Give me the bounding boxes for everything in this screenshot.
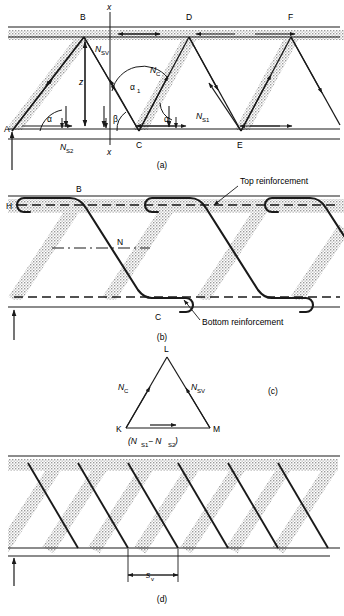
svg-text:S2: S2 (66, 148, 74, 154)
svg-text:v: v (151, 576, 154, 582)
svg-text:− N: − N (148, 436, 162, 446)
triangle-edge-label-nsv: N SV (191, 382, 205, 394)
panel-b-caption: (b) (157, 332, 168, 342)
panel-a: A B C D E F x x N SV N C N S1 N S2 z α β… (4, 2, 344, 170)
svg-text:C: C (124, 388, 129, 394)
panel-b: H B N C Top reinforcement Bottom reinfor… (6, 176, 344, 342)
panel-a-compression-bands (8, 30, 344, 132)
svg-text:(N: (N (128, 436, 138, 446)
dimension-label-z: z (78, 77, 84, 87)
svg-text:SV: SV (197, 388, 205, 394)
force-label-ns1: N S1 (196, 111, 210, 123)
node-label-H: H (6, 201, 12, 211)
section-mark-bottom: x (106, 147, 112, 157)
panel-d-caption: (d) (157, 594, 168, 604)
node-label-C: C (136, 140, 142, 150)
panel-d: s v (d) (2, 456, 340, 604)
angle-label-alpha-left: α (47, 114, 52, 124)
panel-c-caption: (c) (268, 386, 278, 396)
node-label-L: L (164, 344, 169, 354)
svg-text:S1: S1 (202, 117, 210, 123)
bottom-reinforcement-label: Bottom reinforcement (202, 317, 284, 327)
triangle-base-label: (N S1 − N S2 ) (128, 436, 178, 448)
panel-c: L K M N C N SV (N S1 − N S2 ) (c) (116, 344, 278, 448)
force-label-ns2: N S2 (60, 142, 74, 154)
node-label-K: K (116, 424, 122, 434)
triangle-edge-label-nc: N C (118, 382, 129, 394)
top-reinforcement-label: Top reinforcement (240, 176, 309, 186)
node-label-N: N (117, 237, 123, 247)
svg-text:1: 1 (137, 88, 141, 94)
section-mark-top: x (106, 2, 112, 12)
panel-a-caption: (a) (157, 160, 168, 170)
node-label-E: E (237, 140, 243, 150)
force-label-nc: N C (150, 65, 161, 77)
node-label-A: A (4, 124, 10, 134)
angle-label-alpha-right: α (164, 114, 169, 124)
force-label-nsv: N SV (95, 44, 109, 56)
svg-text:C: C (156, 71, 161, 77)
panel-b-node-label-C: C (155, 312, 161, 322)
angle-label-beta: β (113, 114, 118, 124)
svg-text:SV: SV (101, 50, 109, 56)
node-label-D: D (186, 12, 192, 22)
spacing-label-sv: s v (146, 570, 154, 582)
angle-label-alpha1: α 1 (130, 82, 141, 94)
panel-b-node-label-B: B (76, 184, 82, 194)
panel-b-compression-bands (8, 199, 344, 300)
figure-root: A B C D E F x x N SV N C N S1 N S2 z α β… (0, 0, 344, 616)
svg-text:): ) (174, 436, 178, 446)
node-label-B: B (80, 12, 86, 22)
svg-text:α: α (130, 82, 135, 92)
node-label-F: F (288, 12, 293, 22)
node-label-M: M (213, 424, 220, 434)
